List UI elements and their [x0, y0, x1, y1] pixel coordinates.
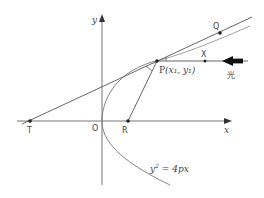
point-r [126, 119, 130, 123]
point-t [28, 119, 32, 123]
light-arrow-icon [222, 56, 233, 66]
equation-label: y2 = 4px [149, 162, 189, 174]
tangent-line [22, 17, 252, 124]
y-axis-label: y [91, 15, 98, 25]
point-q [218, 31, 222, 35]
light-label: 光 [227, 70, 235, 80]
label-x: X [201, 50, 207, 59]
y-axis-arrow-icon [99, 14, 105, 22]
label-o: O [92, 124, 98, 133]
point-p [155, 59, 159, 63]
focal-line-pr [128, 61, 157, 121]
label-t: T [26, 126, 32, 135]
y-axis [99, 14, 105, 185]
x-axis-arrow-icon [224, 118, 232, 124]
light-arrow-shaft [232, 59, 243, 64]
angle-mark-lower [146, 66, 152, 71]
label-p-coords: (x₁, y₁) [165, 65, 196, 75]
label-q: Q [213, 22, 219, 31]
equation-rest: = 4px [159, 164, 189, 174]
x-axis [17, 118, 232, 124]
point-x [204, 60, 207, 63]
label-r: R [122, 126, 128, 135]
label-p: P(x₁, y₁) [159, 65, 196, 75]
x-axis-label: x [224, 125, 229, 135]
parabola-reflection-diagram: y x T O R P(x₁, y₁) X Q 光 y2 = 4px [0, 0, 264, 198]
